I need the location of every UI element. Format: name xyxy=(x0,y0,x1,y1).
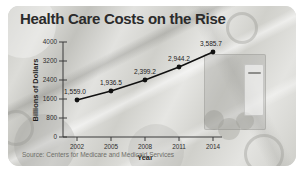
y-tick-label: 2400 xyxy=(43,76,58,83)
y-axis-title: Billions of Dollars xyxy=(31,59,40,122)
y-axis-tick-labels: 0 800 1600 2400 3200 4000 xyxy=(43,38,58,140)
chart-area: Health Care Costs on the Rise 0 800 1600… xyxy=(8,6,296,166)
y-tick-label: 0 xyxy=(53,133,57,140)
data-point-label: 3,585.7 xyxy=(200,40,222,47)
data-point-marker xyxy=(211,50,216,55)
data-point-label: 2,399.2 xyxy=(134,68,156,75)
y-tick-label: 800 xyxy=(46,114,57,121)
data-point-marker xyxy=(75,98,80,103)
data-point-label: 2,944.2 xyxy=(168,55,190,62)
chart-card: Health Care Costs on the Rise 0 800 1600… xyxy=(8,6,296,166)
x-axis-tick-labels: 2002 2005 2008 2011 2014 xyxy=(70,143,221,150)
x-tick-label: 2011 xyxy=(172,143,186,150)
data-point-label: 1,559.0 xyxy=(64,88,86,95)
data-point-marker xyxy=(177,65,182,70)
x-tick-label: 2014 xyxy=(206,143,221,150)
data-point-labels: 1,559.0 1,936.5 2,399.2 2,944.2 3,585.7 xyxy=(64,40,222,95)
data-point-marker xyxy=(109,89,114,94)
x-tick-label: 2005 xyxy=(104,143,119,150)
line-chart-plot: 0 800 1600 2400 3200 4000 Billions of Do… xyxy=(8,6,296,166)
x-tick-label: 2002 xyxy=(70,143,85,150)
y-tick-label: 4000 xyxy=(43,38,58,45)
x-tick-label: 2008 xyxy=(138,143,153,150)
x-axis-ticks xyxy=(77,137,213,141)
y-tick-label: 1600 xyxy=(43,95,58,102)
chart-source-note: Source: Centers for Medicare and Medicai… xyxy=(22,151,174,158)
y-tick-label: 3200 xyxy=(43,57,58,64)
data-series-line xyxy=(77,52,213,100)
data-point-label: 1,936.5 xyxy=(100,79,122,86)
data-point-marker xyxy=(143,78,148,83)
